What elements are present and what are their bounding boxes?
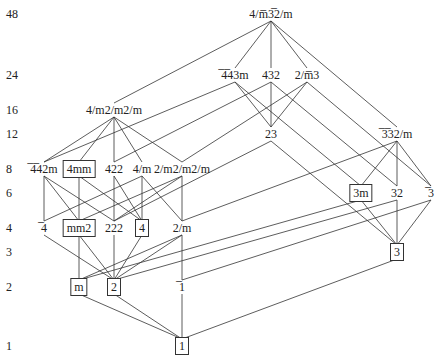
subgroup-edge (271, 21, 397, 127)
subgroup-edge (114, 117, 182, 162)
subgroup-edge (235, 21, 271, 68)
point-group-b4: ̅4 (39, 221, 49, 235)
order-label: 1 (6, 339, 26, 354)
point-group-n432: 432 (260, 68, 282, 82)
subgroup-edge (235, 82, 361, 186)
subgroup-edge (114, 235, 182, 280)
point-group-n3m: 3m (349, 184, 372, 202)
point-group-m3: 2/m̅3 (293, 68, 322, 82)
subgroup-edge (114, 200, 397, 280)
subgroup-edge (79, 176, 142, 221)
point-group-b43m: ̅4̅43m (219, 68, 250, 82)
point-group-b42m: ̅4̅42m (28, 162, 59, 176)
point-group-n4mmm: 4/m2/m2/m (84, 103, 144, 117)
point-group-n3: 3 (390, 243, 404, 261)
subgroup-edge (361, 200, 397, 245)
subgroup-edge (114, 294, 182, 339)
subgroup-edge (397, 141, 431, 186)
order-label: 16 (6, 103, 26, 118)
point-group-m: m (70, 278, 87, 296)
point-group-n4m: 4/m (131, 162, 154, 176)
subgroup-edge (397, 200, 431, 245)
subgroup-edge (271, 141, 397, 245)
point-group-n32: 32 (389, 186, 405, 200)
subgroup-edge (114, 82, 271, 162)
point-group-mm2: mm2 (63, 219, 96, 237)
point-group-n4mm: 4mm (63, 160, 96, 178)
point-group-b1: ̅1 (177, 280, 187, 294)
subgroup-edge (79, 294, 182, 339)
point-group-n2m: 2/m (171, 221, 194, 235)
point-group-n4: 4 (135, 219, 149, 237)
point-group-b3m: ̅3̅32/m (380, 127, 415, 141)
order-label: 12 (6, 127, 26, 142)
subgroup-edge (44, 82, 235, 162)
subgroup-edge (114, 141, 271, 221)
subgroup-edge (182, 259, 397, 339)
subgroup-edge (44, 117, 114, 162)
point-group-n23: 23 (263, 127, 279, 141)
subgroup-edges (0, 0, 439, 358)
subgroup-edge (79, 235, 182, 280)
point-group-n2: 2 (107, 278, 121, 296)
subgroup-edge (235, 82, 271, 127)
subgroup-edge (271, 82, 397, 186)
subgroup-edge (271, 21, 307, 68)
subgroup-edge (271, 82, 307, 127)
point-group-n422: 422 (103, 162, 125, 176)
point-group-b3: ̅3 (426, 186, 436, 200)
order-label: 6 (6, 186, 26, 201)
subgroup-edge (79, 117, 114, 162)
subgroup-edge (114, 21, 271, 103)
point-group-n222: 222 (103, 221, 125, 235)
point-group-mmm: 2/m2/m2/m (152, 162, 212, 176)
order-label: 3 (6, 245, 26, 260)
order-label: 2 (6, 280, 26, 295)
point-group-n1: 1 (175, 337, 189, 355)
order-label: 24 (6, 68, 26, 83)
subgroup-edge (79, 176, 182, 221)
order-label: 4 (6, 221, 26, 236)
subgroup-edge (44, 176, 79, 221)
order-label: 48 (6, 7, 26, 22)
point-group-m3m: 4/m̅3̅2/m (247, 7, 294, 21)
order-label: 8 (6, 162, 26, 177)
subgroup-edge (79, 235, 114, 280)
